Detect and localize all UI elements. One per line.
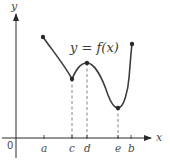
tick-label-e: e xyxy=(115,142,121,154)
point-local-min-c xyxy=(70,77,74,81)
x-axis-label: x xyxy=(156,131,163,144)
origin-label: 0 xyxy=(7,140,13,151)
point-left-endpoint xyxy=(41,35,45,39)
point-local-min-e xyxy=(116,106,120,110)
tick-label-d: d xyxy=(84,142,91,154)
tick-label-c: c xyxy=(69,142,75,154)
tick-label-b: b xyxy=(128,142,135,154)
function-graph: y x 0 a c d e b y = f(x) xyxy=(0,0,170,161)
point-local-max-d xyxy=(85,61,89,65)
function-label: y = f(x) xyxy=(69,40,119,55)
y-axis-label: y xyxy=(10,0,18,13)
point-right-endpoint xyxy=(130,42,134,46)
tick-label-a: a xyxy=(41,142,47,154)
